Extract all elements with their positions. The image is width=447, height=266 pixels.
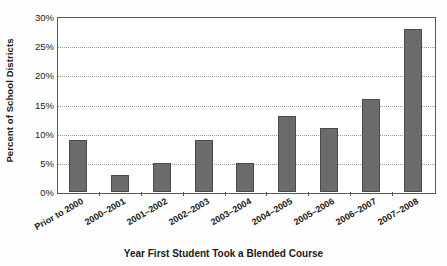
y-axis-tick-label: 0% bbox=[6, 187, 54, 198]
y-axis-tick-label: 20% bbox=[6, 70, 54, 81]
bar[interactable] bbox=[404, 29, 422, 192]
y-axis-tick-label: 25% bbox=[6, 41, 54, 52]
y-axis-tick-label: 5% bbox=[6, 157, 54, 168]
bar-slot bbox=[57, 17, 99, 192]
y-axis-tick-label: 10% bbox=[6, 128, 54, 139]
bar-slot bbox=[99, 17, 141, 192]
bar[interactable] bbox=[195, 140, 213, 193]
x-axis-title: Year First Student Took a Blended Course bbox=[0, 248, 447, 259]
bar[interactable] bbox=[362, 99, 380, 192]
bar-slot bbox=[266, 17, 308, 192]
bar[interactable] bbox=[236, 163, 254, 192]
bar-slot bbox=[350, 17, 392, 192]
bar[interactable] bbox=[69, 140, 87, 193]
y-axis-tick-label: 30% bbox=[6, 12, 54, 23]
bar-series bbox=[57, 17, 434, 192]
y-axis-tick-labels: 0%5%10%15%20%25%30% bbox=[0, 17, 54, 192]
bar-slot bbox=[141, 17, 183, 192]
bar[interactable] bbox=[320, 128, 338, 192]
x-axis-tick-labels: Prior to 20002000–20012001–20022002–2003… bbox=[57, 196, 434, 246]
y-axis-tick-label: 15% bbox=[6, 99, 54, 110]
bar-chart: Percent of School Districts 0%5%10%15%20… bbox=[0, 0, 447, 266]
bar[interactable] bbox=[153, 163, 171, 192]
bar-slot bbox=[225, 17, 267, 192]
bar-slot bbox=[308, 17, 350, 192]
bar-slot bbox=[183, 17, 225, 192]
bar-slot bbox=[392, 17, 434, 192]
bar[interactable] bbox=[111, 175, 129, 193]
bar[interactable] bbox=[278, 116, 296, 192]
